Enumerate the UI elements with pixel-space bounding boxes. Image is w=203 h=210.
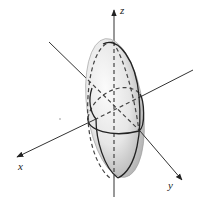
x-axis-label: x xyxy=(17,160,23,172)
y-axis-negative xyxy=(49,42,88,80)
stray-dot xyxy=(59,118,60,119)
z-axis-label: z xyxy=(119,4,125,16)
ellipsoid-diagram: z x y xyxy=(0,0,203,210)
ellipsoid-surface xyxy=(78,35,153,181)
y-axis-positive xyxy=(140,131,182,180)
ellipsoid xyxy=(78,35,153,181)
x-axis-positive xyxy=(17,119,96,157)
x-axis-positive-back xyxy=(142,70,193,96)
y-axis-label: y xyxy=(167,179,173,191)
